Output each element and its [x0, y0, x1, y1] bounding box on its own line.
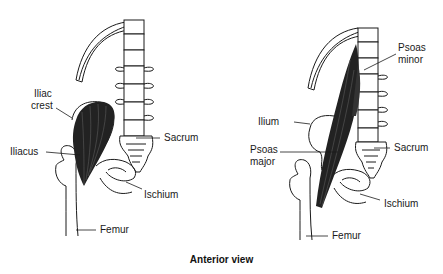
- psoas-figure: Psoas minor Ilium Psoas major Sacrum Isc…: [220, 0, 443, 250]
- diagram-caption: Anterior view: [0, 254, 443, 265]
- label-femur: Femur: [100, 224, 129, 236]
- label-psoas-major-line2: major: [250, 156, 275, 168]
- label-psoas-minor-line1: Psoas: [398, 42, 426, 54]
- label-sacrum: Sacrum: [164, 132, 198, 144]
- label-psoas-major-line1: Psoas: [250, 144, 278, 156]
- label-iliacus: Iliacus: [10, 146, 38, 158]
- label-ilium: Ilium: [258, 116, 279, 128]
- label-ischium: Ischium: [144, 189, 178, 201]
- psoas-illustration: [220, 0, 443, 250]
- label-ischium: Ischium: [384, 198, 418, 210]
- iliacus-figure: Iliac crest Iliacus Sacrum Ischium Femur: [0, 0, 220, 250]
- label-iliac-crest-line2: crest: [31, 100, 53, 112]
- label-iliac-crest-line1: Iliac: [34, 88, 52, 100]
- iliacus-illustration: [0, 0, 220, 250]
- label-femur: Femur: [332, 230, 361, 242]
- iliacus-muscle: [73, 102, 115, 186]
- label-psoas-minor-line2: minor: [398, 54, 423, 66]
- label-sacrum: Sacrum: [394, 142, 428, 154]
